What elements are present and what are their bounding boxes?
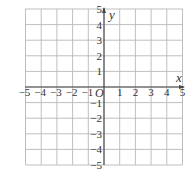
x-tick-label: 2 (133, 86, 139, 98)
y-tick-label: −4 (90, 143, 102, 155)
y-tick-label: −5 (90, 159, 102, 171)
x-tick-label: −5 (19, 86, 31, 98)
y-axis-arrow-icon (102, 7, 106, 13)
y-tick-label: −3 (90, 128, 102, 140)
x-tick-label: −4 (34, 86, 46, 98)
x-tick-label: 5 (180, 86, 186, 98)
y-tick-label: 4 (97, 19, 103, 31)
y-tick-label: 3 (97, 34, 103, 46)
x-tick-label: 4 (164, 86, 170, 98)
x-tick-label: 3 (148, 86, 154, 98)
y-tick-label: −2 (90, 112, 102, 124)
x-axis-label: x (175, 70, 182, 85)
coordinate-plane: x y O −5−4−3−2−112345 54321−1−2−3−4−5 (0, 0, 194, 178)
y-axis-label: y (107, 7, 115, 22)
y-tick-label: 1 (97, 65, 103, 77)
y-tick-label: 5 (97, 3, 103, 15)
x-tick-label: −3 (50, 86, 62, 98)
x-tick-label: 1 (117, 86, 123, 98)
y-tick-label: 2 (97, 50, 103, 62)
axes (25, 7, 185, 165)
y-tick-label: −1 (90, 97, 102, 109)
x-tick-label: −2 (66, 86, 78, 98)
